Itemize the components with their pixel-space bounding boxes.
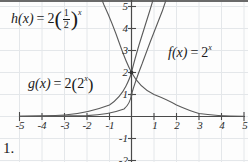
equation-label-f: f(x)=2x [168,45,212,60]
equation-f-equals: = [190,45,198,60]
y-tick-label--2: -2 [114,155,128,162]
close-paren-icon: ) [71,10,78,27]
equation-f-name: f(x) [168,45,187,60]
y-tick-label-5: 5 [116,1,128,12]
x-tick-label-2: 2 [170,120,184,131]
equation-g-equals: = [54,76,62,91]
intersection-point-0-1 [130,93,132,95]
x-tick-label-4: 4 [215,120,229,131]
equation-h-coefficient: 2 [47,11,54,26]
x-tick-label-1: 1 [148,120,162,131]
fraction-numerator: 1 [63,8,70,19]
open-paren-icon: ( [71,78,77,92]
equation-g-coefficient: 2 [64,76,71,91]
x-tick-label--3: -3 [57,120,73,131]
x-tick-label--1: -1 [102,120,118,131]
x-tick-label-5: 5 [238,120,248,131]
x-tick-label--2: -2 [79,120,95,131]
equation-label-h: h(x)=2(12)x [11,9,82,31]
equation-label-g: g(x)=2(2x) [28,76,93,91]
x-tick-label-3: 3 [193,120,207,131]
intersection-point-0-2 [130,71,134,75]
equation-h-exponent: x [78,8,82,17]
y-tick-label-4: 4 [116,23,128,34]
exponential-functions-figure: -5 -4 -3 -2 -1 1 2 3 4 5 5 4 3 2 1 -1 -2… [0,0,248,162]
y-tick-label-2: 2 [116,67,128,78]
fraction-one-half: 12 [63,8,70,30]
equation-h-equals: = [37,11,45,26]
fraction-denominator: 2 [63,19,70,31]
equation-f-exponent: x [208,43,212,52]
y-tick-label-3: 3 [116,45,128,56]
y-tick-label-1: 1 [116,89,128,100]
equation-g-name: g(x) [28,76,51,91]
close-paren-icon: ) [88,78,94,92]
x-tick-label--5: -5 [12,120,28,131]
item-number: 1. [3,140,14,157]
open-paren-icon: ( [54,10,61,27]
x-tick-label--4: -4 [34,120,50,131]
equation-h-name: h(x) [11,11,34,26]
y-tick-label--1: -1 [114,133,128,144]
